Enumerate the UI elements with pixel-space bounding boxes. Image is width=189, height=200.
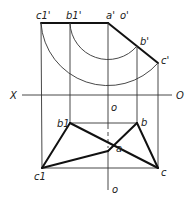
- arc-b-rotation: [70, 23, 137, 59]
- label-c: c: [161, 167, 167, 178]
- label-axis-o: O: [176, 90, 184, 101]
- label-o-prime: o': [120, 10, 129, 21]
- label-c1-prime: c1': [36, 10, 51, 21]
- label-b: b: [141, 117, 147, 128]
- label-axis-x: X: [9, 90, 18, 101]
- edge-ap-cp: [108, 23, 158, 63]
- label-a-prime: a': [106, 10, 115, 21]
- label-a: a: [116, 143, 122, 154]
- label-o-upper: o: [111, 102, 117, 113]
- label-b1: b1: [57, 118, 70, 129]
- label-b1-prime: b1': [66, 10, 81, 21]
- edge-b-a: [108, 123, 137, 151]
- label-o-lower: o: [112, 184, 118, 195]
- label-b-prime: b': [140, 36, 149, 47]
- proj-line-c1: [41, 23, 42, 168]
- label-c-prime: c': [161, 55, 169, 66]
- label-c1: c1: [34, 171, 46, 182]
- arc-c-rotation: [41, 23, 158, 86]
- projection-drawing: c1' b1' a' o' b' c' X O o b1 b a c1 c o: [0, 0, 189, 200]
- edge-b-c: [137, 123, 158, 168]
